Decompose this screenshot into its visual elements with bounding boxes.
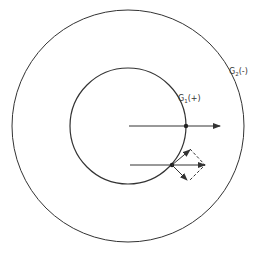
label-g2: G2(-) bbox=[229, 67, 248, 77]
tangent-component-arrow bbox=[172, 150, 190, 165]
diagram-canvas: G2(-) G1(+) bbox=[0, 0, 263, 257]
upper-point bbox=[184, 124, 188, 128]
normal-component-arrow bbox=[172, 165, 187, 180]
label-g1: G1(+) bbox=[178, 94, 201, 104]
